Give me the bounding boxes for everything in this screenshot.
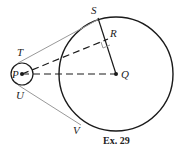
tangent-ts [18,19,99,63]
tangent-uv [18,85,81,125]
label-u: U [16,89,25,101]
segment-pr [22,39,108,74]
point-q [114,72,118,76]
label-s: S [91,4,97,16]
tangent-circles-diagram: S R T P Q U V Ex. 29 [0,0,179,147]
label-v: V [73,124,81,136]
label-p: P [11,68,19,80]
label-r: R [109,27,117,39]
caption: Ex. 29 [103,135,130,146]
point-p [20,72,24,76]
label-q: Q [121,68,129,80]
label-t: T [17,46,24,58]
